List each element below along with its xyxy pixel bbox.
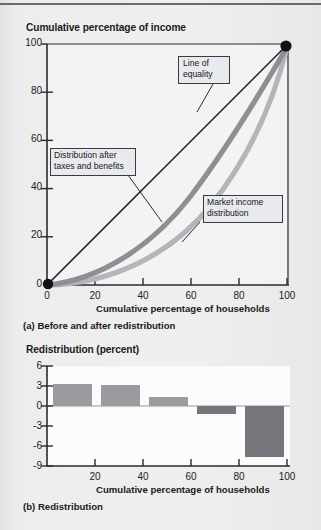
bar-quintile-4	[197, 406, 236, 414]
endpoint-marker-origin	[43, 279, 53, 289]
panel-b-caption: (b) Redistribution	[23, 501, 103, 512]
bar-quintile-3	[149, 397, 188, 406]
panel-a-x-axis-title: Cumulative percentage of households	[96, 303, 270, 314]
callout-market-income-line2: distribution	[207, 208, 249, 218]
callout-line-of-equality-line1: Line of	[183, 58, 209, 68]
callout-line-of-equality-line2: equality	[183, 69, 213, 79]
bar-quintile-2	[101, 385, 140, 406]
figure-page: Cumulative percentage of income 100 80 6…	[0, 0, 321, 530]
panel-a-lorenz-chart: Cumulative percentage of income 100 80 6…	[0, 0, 321, 345]
callout-distribution-after-taxes-line2: taxes and benefits	[54, 161, 124, 171]
panel-a-plot	[0, 0, 321, 345]
bar-quintile-5	[245, 406, 284, 457]
panel-b-x-axis-title: Cumulative percentage of households	[96, 484, 270, 495]
panel-b-redistribution-chart: Redistribution (percent) 6 3 0 -3 -6 -9 …	[0, 340, 321, 530]
callout-market-income-line1: Market income	[207, 197, 263, 207]
callout-distribution-after-taxes-line1: Distribution after	[54, 150, 117, 160]
bar-quintile-1	[53, 384, 92, 406]
panel-a-caption: (a) Before and after redistribution	[23, 320, 175, 331]
endpoint-marker-top	[280, 40, 291, 51]
